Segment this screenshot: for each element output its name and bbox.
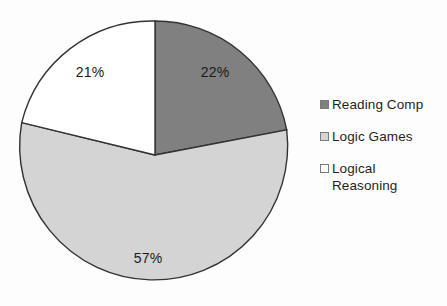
legend-swatch-icon <box>320 100 329 109</box>
pie-plot-area: 22% 57% 21% <box>0 0 310 306</box>
legend-item-label: Reading Comp <box>332 96 423 113</box>
legend-swatch-icon <box>320 164 329 173</box>
pie-slices <box>20 21 288 280</box>
legend-item-logic-games[interactable]: Logic Games <box>320 128 445 145</box>
legend-swatch-icon <box>320 132 329 141</box>
legend-item-label: Logic Games <box>332 128 413 145</box>
slice-value-label-logic-games: 57% <box>134 250 163 266</box>
legend-item-label: Logical Reasoning <box>332 160 418 194</box>
legend-item-reading-comp[interactable]: Reading Comp <box>320 96 445 113</box>
slice-value-label-logical-reasoning: 21% <box>76 64 105 80</box>
legend-item-logical-reasoning[interactable]: Logical Reasoning <box>320 160 445 194</box>
pie-chart: 22% 57% 21% Reading Comp Logic Games Log… <box>0 0 447 306</box>
slice-value-label-reading-comp: 22% <box>201 64 230 80</box>
legend: Reading Comp Logic Games Logical Reasoni… <box>320 96 445 209</box>
